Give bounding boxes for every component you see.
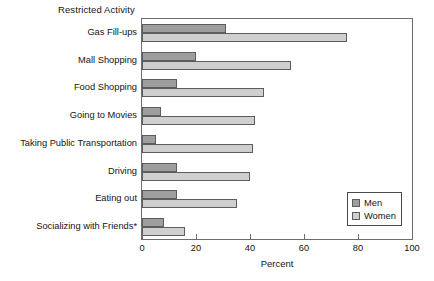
bar-women-0	[142, 33, 347, 42]
x-tick-label-2: 40	[245, 243, 255, 253]
x-tick-mark-5	[412, 234, 413, 239]
legend-item-women[interactable]: Women	[352, 209, 396, 222]
bar-women-2	[142, 88, 264, 97]
bar-women-3	[142, 116, 255, 125]
bar-men-1	[142, 52, 196, 61]
x-tick-mark-3	[304, 234, 305, 239]
bar-women-5	[142, 172, 250, 181]
legend-swatch-men-icon	[352, 199, 360, 207]
category-label-1: Mall Shopping	[78, 55, 137, 65]
bar-women-6	[142, 199, 237, 208]
legend-label-men: Men	[364, 198, 382, 208]
bar-men-6	[142, 190, 177, 199]
category-label-0: Gas Fill-ups	[87, 27, 137, 37]
x-tick-label-1: 20	[191, 243, 201, 253]
bar-women-1	[142, 61, 291, 70]
bar-men-0	[142, 24, 226, 33]
x-tick-mark-0	[142, 234, 143, 239]
x-tick-label-0: 0	[139, 243, 144, 253]
x-tick-mark-1	[196, 234, 197, 239]
category-label-2: Food Shopping	[74, 82, 137, 92]
category-label-7: Socializing with Friends*	[36, 221, 137, 231]
x-tick-label-4: 80	[353, 243, 363, 253]
bar-women-7	[142, 227, 185, 236]
bar-men-7	[142, 218, 164, 227]
legend-item-men[interactable]: Men	[352, 196, 396, 209]
x-axis-title: Percent	[141, 258, 413, 269]
x-tick-label-5: 100	[404, 243, 420, 253]
x-tick-mark-2	[250, 234, 251, 239]
bar-men-4	[142, 135, 156, 144]
chart-title: Restricted Activity	[58, 4, 135, 15]
category-label-4: Taking Public Transportation	[20, 138, 137, 148]
legend-label-women: Women	[364, 211, 396, 221]
bar-men-3	[142, 107, 161, 116]
category-axis-labels: Gas Fill-upsMall ShoppingFood ShoppingGo…	[0, 18, 137, 240]
category-label-3: Going to Movies	[70, 110, 137, 120]
x-tick-label-3: 60	[299, 243, 309, 253]
legend: Men Women	[347, 192, 402, 226]
legend-swatch-women-icon	[352, 212, 360, 220]
category-label-6: Eating out	[95, 193, 137, 203]
bar-men-2	[142, 79, 177, 88]
x-tick-mark-4	[358, 234, 359, 239]
bar-women-4	[142, 144, 253, 153]
bar-men-5	[142, 163, 177, 172]
category-label-5: Driving	[108, 166, 137, 176]
bar-chart: Restricted Activity Gas Fill-upsMall Sho…	[0, 0, 434, 281]
